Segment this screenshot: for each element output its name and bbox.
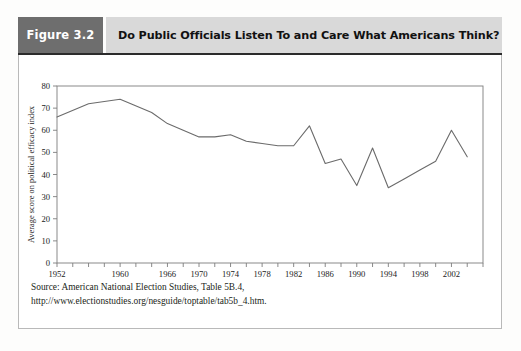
figure-header: Figure 3.2 Do Public Officials Listen To… [18, 17, 502, 53]
figure-title: Do Public Officials Listen To and Care W… [106, 17, 502, 53]
figure-number-badge: Figure 3.2 [18, 17, 103, 53]
figure-container: Figure 3.2 Do Public Officials Listen To… [0, 0, 521, 351]
source-note: Source: American National Election Studi… [31, 281, 461, 308]
